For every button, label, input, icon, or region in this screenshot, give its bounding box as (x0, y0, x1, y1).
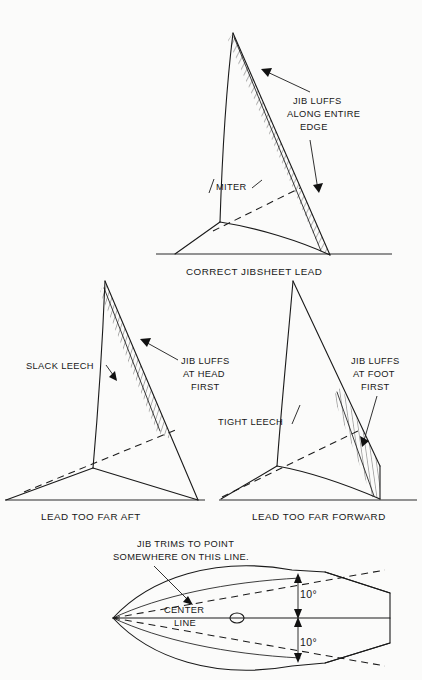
leader-lower-top (310, 140, 318, 190)
panel-lead-too-far-aft: SLACK LEECH JIB LUFFS AT HEAD FIRST LEAD… (5, 281, 230, 522)
trim-line-upper-10deg (113, 570, 385, 618)
arrowhead-upper-top (261, 68, 272, 77)
label-jib-luffs-foot-line2: AT FOOT (353, 369, 395, 379)
tack-deck-line-fwd (221, 466, 277, 499)
jibsheet-lead-figure: MITER JIB LUFFS ALONG ENTIRE EDGE CORREC… (0, 0, 422, 680)
panel-lead-too-far-forward: TIGHT LEECH JIB LUFFS AT FOOT FIRST LEAD… (218, 281, 417, 522)
arrowhead-jib-luffs-head (140, 338, 151, 347)
label-angle-upper: 10° (300, 588, 317, 600)
label-jib-luffs-foot-line3: FIRST (361, 382, 390, 392)
sheet-lead-dashed-fwd (222, 430, 360, 497)
miter-leader-left (209, 179, 214, 193)
label-jib-luffs-entire-line2: ALONG ENTIRE (287, 109, 360, 119)
jib-foot-aft (93, 468, 198, 500)
label-angle-lower: 10° (300, 636, 317, 648)
jib-luff-aft (93, 281, 105, 468)
arrowhead-lower-top (313, 183, 323, 193)
sheet-lead-dashed-aft (24, 429, 178, 492)
hull-sheer-upper (113, 578, 300, 618)
hull-quarter-lower (325, 643, 390, 663)
trim-line-lower-10deg (113, 618, 385, 666)
panel-hull-plan-view: 10° 10° CENTER LINE JIB TRIMS TO POINT S… (113, 539, 390, 670)
label-jib-luffs-head-line1: JIB LUFFS (181, 356, 230, 366)
leader-upper-top (263, 70, 310, 92)
luff-hatch-band-top (228, 33, 330, 255)
jib-luff-top (220, 33, 233, 222)
label-jib-luffs-entire-line1: JIB LUFFS (293, 96, 342, 106)
jib-leech-aft (105, 281, 198, 500)
tack-deck-line-aft (6, 468, 93, 500)
label-jib-luffs-foot-line1: JIB LUFFS (351, 356, 400, 366)
miter-leader-right (252, 180, 262, 188)
tack-deck-line-top (175, 222, 220, 254)
hull-quarter-upper (325, 572, 390, 593)
label-jib-trims-line2: SOMEWHERE ON THIS LINE. (113, 552, 249, 562)
label-center-line1: CENTER (164, 605, 204, 615)
label-miter: MITER (216, 182, 247, 192)
luff-hatch-inner-edge-aft (104, 288, 160, 431)
leader-tight-leech (292, 405, 300, 424)
caption-lead-too-far-aft: LEAD TOO FAR AFT (41, 511, 141, 522)
caption-lead-too-far-forward: LEAD TOO FAR FORWARD (252, 511, 386, 522)
label-jib-luffs-head-line3: FIRST (191, 382, 220, 392)
luff-hatch-inner-edge-top (234, 37, 321, 251)
label-jib-luffs-entire-line3: EDGE (300, 122, 328, 132)
leader-jib-luffs-foot (363, 396, 377, 444)
label-jib-trims-line1: JIB TRIMS TO POINT (137, 539, 234, 549)
label-center-line2: LINE (174, 618, 196, 628)
miter-line-top (213, 188, 300, 231)
label-jib-luffs-head-line2: AT HEAD (183, 369, 225, 379)
label-slack-leech: SLACK LEECH (26, 361, 94, 371)
caption-correct-jibsheet-lead: CORRECT JIBSHEET LEAD (186, 266, 322, 277)
luff-hatch-band-fwd (333, 387, 380, 499)
hull-sheer-lower (113, 618, 300, 658)
arrowhead-jib-trims (183, 596, 193, 605)
panel-correct-jibsheet-lead: MITER JIB LUFFS ALONG ENTIRE EDGE CORREC… (156, 33, 392, 277)
jib-luff-fwd (277, 281, 293, 466)
arrowhead-slack-leech (109, 371, 117, 381)
figure-canvas: MITER JIB LUFFS ALONG ENTIRE EDGE CORREC… (0, 0, 422, 680)
label-tight-leech: TIGHT LEECH (218, 417, 283, 427)
